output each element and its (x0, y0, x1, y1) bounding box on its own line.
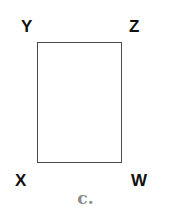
figure-caption: c. (0, 189, 169, 207)
vertex-label-y: Y (21, 18, 32, 35)
vertex-label-w: W (131, 172, 147, 189)
vertex-label-z: Z (129, 18, 139, 35)
vertex-label-x: X (15, 172, 26, 189)
rectangle-xyzw (37, 42, 122, 163)
